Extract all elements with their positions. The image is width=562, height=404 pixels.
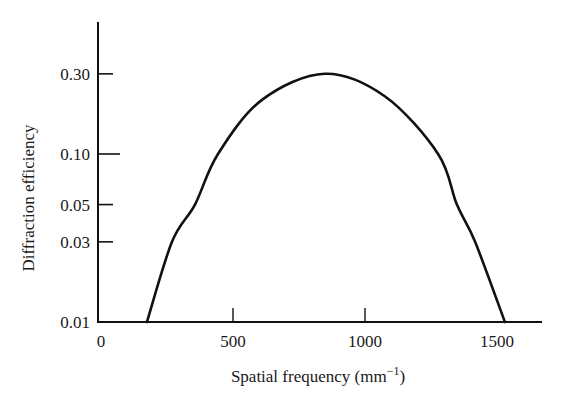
x-axis-title: Spatial frequency (mm−1) xyxy=(231,364,405,386)
x-axis-title-main: Spatial frequency (mm xyxy=(231,367,387,386)
y-tick-label: 0.05 xyxy=(60,196,90,215)
x-tick-label: 1500 xyxy=(480,332,514,351)
efficiency-curve xyxy=(147,74,505,322)
plot-area xyxy=(147,74,505,322)
chart: 0.010.030.050.100.30 050010001500 Diffra… xyxy=(0,0,562,404)
y-tick-label: 0.10 xyxy=(60,145,90,164)
x-axis-title-close: ) xyxy=(399,367,405,386)
x-axis: 050010001500 xyxy=(97,308,542,351)
x-tick-label: 1000 xyxy=(348,332,382,351)
x-axis-title-sup: −1 xyxy=(387,364,400,378)
y-axis: 0.010.030.050.100.30 xyxy=(60,22,120,332)
x-tick-label: 500 xyxy=(220,332,246,351)
y-tick-label: 0.30 xyxy=(60,65,90,84)
x-tick-label: 0 xyxy=(97,332,106,351)
y-tick-label: 0.01 xyxy=(60,313,90,332)
y-tick-label: 0.03 xyxy=(60,233,90,252)
y-axis-title: Diffraction efficiency xyxy=(19,124,38,272)
